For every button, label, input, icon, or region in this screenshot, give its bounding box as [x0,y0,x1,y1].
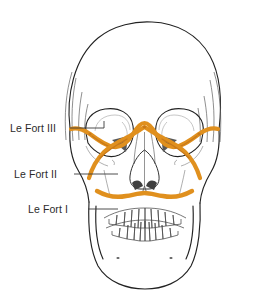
label-le-fort-i: Le Fort I [28,204,68,215]
mandible-inner-ramus-left [96,206,103,259]
le-fort-i-fracture-line [97,191,192,197]
right-temporal-ridge [214,72,221,142]
right-facial-outline [200,130,219,203]
mental-foramen-group [116,257,172,259]
le-fort-iii-step-right [197,132,200,135]
upper-tooth-10 [173,215,181,225]
label-le-fort-ii: Le Fort II [14,169,57,180]
left-temporal-line-a [72,78,76,141]
lower-tooth-8 [162,225,171,239]
right-maxilla-line [179,170,185,196]
lower-tooth-9 [112,228,120,237]
skull-diagram: Le Fort III Le Fort II Le Fort I [0,0,255,302]
cranial-vault-group [69,22,220,130]
right-orbit-inner-a [159,115,194,131]
left-infraorbital-foramen [112,160,114,165]
right-infraorbital-foramen [175,160,177,165]
nasal-region-group [134,132,155,186]
lower-tooth-10 [170,228,178,237]
left-temporal-line-b [79,92,82,140]
lower-tooth-7 [119,225,128,239]
skull-illustration [0,0,255,302]
le-fort-ii-apex [143,125,146,128]
calvaria-outline [69,22,220,130]
lower-dentition-group [106,220,184,241]
right-temporal-line-b [204,96,207,142]
le-fort-i-path [97,191,192,197]
right-mental-foramen [169,257,172,259]
label-le-fort-iii: Le Fort III [10,123,56,134]
right-temporal-line-a [210,80,214,142]
left-mental-foramen [116,257,119,259]
le-fort-iii-step-left [88,132,91,135]
mandible-inner-ramus-right [186,206,193,259]
upper-tooth-9 [109,215,117,225]
left-orbit-inner-a [95,115,130,131]
mandible-outline [89,202,200,289]
